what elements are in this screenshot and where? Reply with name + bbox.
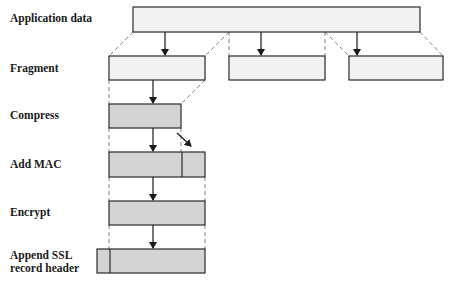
ssl-record-protocol-diagram <box>0 0 450 284</box>
fragment-box-1 <box>109 56 205 80</box>
ssl-record-box <box>97 249 205 273</box>
encrypted-box <box>109 201 205 225</box>
add-mac-box <box>109 152 205 177</box>
arrow-mac-diagonal <box>177 133 191 146</box>
fragment-box-3 <box>349 56 443 80</box>
compressed-box <box>109 104 181 128</box>
fragment-box-2 <box>229 56 325 80</box>
application-data-box <box>133 7 420 32</box>
